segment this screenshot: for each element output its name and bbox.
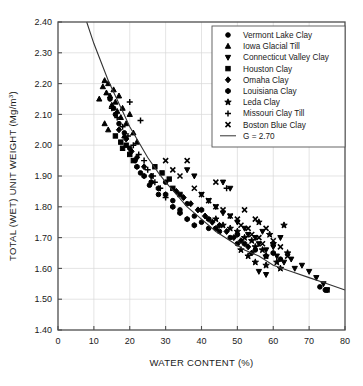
legend-label: Vermont Lake Clay	[243, 31, 313, 40]
data-point	[160, 171, 164, 175]
data-point	[271, 250, 276, 255]
x-tick-label: 10	[89, 336, 99, 346]
data-point	[192, 223, 197, 228]
data-point	[178, 210, 183, 215]
x-tick-label: 0	[55, 336, 60, 346]
data-point	[199, 207, 204, 212]
y-tick-label: 2.10	[34, 110, 52, 120]
y-axis-title: TOTAL (WET) UNIT WEIGHT (Mg/m3)	[7, 91, 18, 261]
x-tick-label: 30	[161, 336, 171, 346]
legend-label: Omaha Clay	[243, 76, 289, 85]
y-tick-label: 1.90	[34, 171, 52, 181]
data-point	[113, 134, 117, 138]
y-tick-label: 1.70	[34, 233, 52, 243]
data-point	[226, 33, 231, 38]
legend: Vermont Lake ClayIowa Glacial TillConnec…	[212, 26, 345, 147]
legend-label: Missouri Clay Till	[243, 109, 305, 118]
data-point	[185, 216, 190, 221]
x-tick-label: 20	[125, 336, 135, 346]
x-tick-label: 50	[232, 336, 242, 346]
x-tick-label: 60	[268, 336, 278, 346]
data-point	[167, 177, 171, 181]
legend-label: Boston Blue Clay	[243, 121, 307, 130]
x-tick-label: 40	[196, 336, 206, 346]
x-tick-label: 70	[304, 336, 314, 346]
data-point	[325, 288, 329, 292]
y-tick-label: 2.40	[34, 17, 52, 27]
data-point	[171, 198, 176, 203]
data-point	[242, 241, 247, 246]
y-tick-label: 2.00	[34, 140, 52, 150]
scatter-plot-svg: 1.401.501.601.701.801.902.002.102.202.30…	[0, 0, 363, 386]
data-point	[119, 140, 123, 144]
x-axis-title: WATER CONTENT (%)	[149, 357, 253, 368]
data-point	[131, 158, 135, 162]
y-tick-label: 1.80	[34, 202, 52, 212]
data-point	[206, 216, 211, 221]
data-point	[142, 173, 147, 178]
y-tick-label: 2.30	[34, 48, 52, 58]
data-point	[226, 88, 231, 93]
svg-text:TOTAL (WET) UNIT WEIGHT (Mg/m3: TOTAL (WET) UNIT WEIGHT (Mg/m3)	[7, 91, 18, 261]
chart-figure: 1.401.501.601.701.801.902.002.102.202.30…	[0, 0, 363, 386]
data-point	[156, 192, 161, 197]
legend-label: Connecticut Valley Clay	[243, 53, 330, 62]
y-tick-label: 2.20	[34, 79, 52, 89]
x-tick-label: 80	[340, 336, 350, 346]
y-tick-label: 1.40	[34, 325, 52, 335]
y-tick-label: 1.60	[34, 264, 52, 274]
data-point	[135, 164, 140, 169]
data-point	[117, 121, 122, 126]
legend-label: Houston Clay	[243, 65, 293, 74]
legend-label: G = 2.70	[243, 132, 275, 141]
data-point	[318, 285, 323, 290]
y-tick-label: 1.50	[34, 294, 52, 304]
data-point	[124, 143, 128, 147]
data-point	[171, 204, 176, 209]
data-point	[226, 66, 230, 70]
legend-label: Iowa Glacial Till	[243, 42, 300, 51]
legend-label: Louisiana Clay	[243, 87, 298, 96]
legend-label: Leda Clay	[243, 98, 281, 107]
